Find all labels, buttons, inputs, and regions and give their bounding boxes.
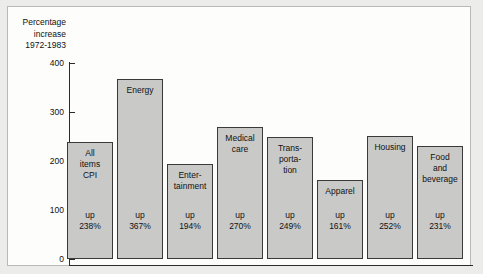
bar[interactable]: Medical careup 270% (217, 127, 263, 259)
y-tick-label: 400 (24, 59, 64, 68)
bar-value-label: up 367% (118, 210, 162, 233)
bar-category-label: All items CPI (68, 148, 112, 181)
bar[interactable]: Apparelup 161% (317, 180, 363, 259)
bar[interactable]: Trans- porta- tionup 249% (267, 137, 313, 259)
bar-category-label: Housing (368, 142, 412, 153)
bar[interactable]: Housingup 252% (367, 136, 413, 259)
chart-panel: Percentage increase 1972-1983 0100200300… (7, 6, 471, 266)
y-tick-label: 200 (24, 157, 64, 166)
bar[interactable]: All items CPIup 238% (67, 142, 113, 259)
y-tick-label: 0 (24, 255, 64, 264)
bar[interactable]: Energyup 367% (117, 79, 163, 259)
y-tick-mark (69, 63, 75, 64)
y-tick-mark (69, 112, 75, 113)
figure: Percentage increase 1972-1983 0100200300… (0, 0, 483, 274)
bar-value-label: up 161% (318, 210, 362, 233)
bar-category-label: Energy (118, 85, 162, 96)
bar-value-label: up 270% (218, 210, 262, 233)
bar-value-label: up 249% (268, 210, 312, 233)
bar-category-label: Medical care (218, 133, 262, 155)
bar-category-label: Enter- tainment (168, 170, 212, 192)
bar-value-label: up 194% (168, 210, 212, 233)
y-tick-label: 100 (24, 206, 64, 215)
bar-category-label: Trans- porta- tion (268, 143, 312, 176)
x-axis-line (69, 265, 473, 266)
bar[interactable]: Enter- tainmentup 194% (167, 164, 213, 259)
bar-category-label: Food and beverage (418, 152, 462, 185)
axis-title: Percentage increase 1972-1983 (12, 17, 66, 52)
bar[interactable]: Food and beverageup 231% (417, 146, 463, 259)
bar-value-label: up 238% (68, 210, 112, 233)
bar-category-label: Apparel (318, 186, 362, 197)
y-tick-label: 300 (24, 108, 64, 117)
bar-value-label: up 231% (418, 210, 462, 233)
y-tick-mark (69, 259, 75, 260)
bar-value-label: up 252% (368, 210, 412, 233)
